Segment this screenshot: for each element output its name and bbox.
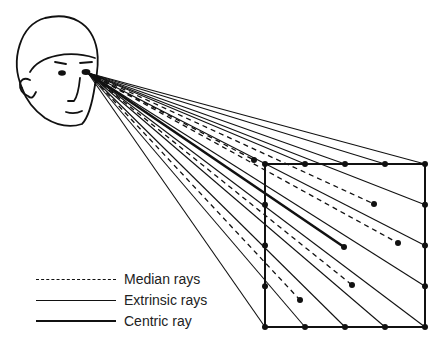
ray-diagram	[0, 0, 440, 344]
extrinsic-ray	[88, 73, 265, 327]
median-ray	[88, 73, 398, 243]
legend-label: Centric ray	[124, 313, 192, 329]
extrinsic-ray	[88, 73, 425, 164]
face-jaw	[22, 85, 95, 126]
centric-point	[341, 244, 347, 250]
legend-label: Extrinsic rays	[124, 292, 207, 308]
head-outline	[17, 16, 98, 88]
edge-point	[342, 324, 348, 330]
edge-point	[262, 161, 268, 167]
edge-point	[262, 202, 268, 208]
edge-point	[382, 161, 388, 167]
median-point	[297, 297, 303, 303]
median-point	[349, 282, 355, 288]
extrinsic-ray	[88, 73, 425, 327]
edge-point	[422, 324, 428, 330]
edge-point	[262, 243, 268, 249]
nose	[68, 78, 80, 101]
edge-point	[422, 161, 428, 167]
extrinsic-ray	[88, 73, 385, 327]
edge-point	[302, 161, 308, 167]
edge-point	[262, 283, 268, 289]
legend-swatch-dashed	[36, 279, 116, 280]
median-ray	[88, 73, 352, 285]
centric-ray	[88, 73, 344, 247]
legend-swatch-thick	[36, 320, 116, 322]
extrinsic-ray	[88, 73, 385, 164]
edge-point	[382, 324, 388, 330]
edge-point	[302, 324, 308, 330]
median-point	[251, 157, 257, 163]
left-eye	[59, 71, 65, 75]
edge-point	[422, 283, 428, 289]
head-drawing	[17, 16, 98, 126]
extrinsic-ray	[88, 73, 305, 164]
edge-point	[422, 202, 428, 208]
left-brow	[55, 62, 66, 64]
rays-group	[88, 73, 425, 327]
extrinsic-ray	[88, 73, 345, 327]
median-point	[395, 240, 401, 246]
mouth	[66, 111, 82, 113]
legend-label: Median rays	[124, 271, 200, 287]
edge-point	[262, 324, 268, 330]
edge-point	[342, 161, 348, 167]
right-brow	[80, 62, 92, 63]
extrinsic-ray	[88, 73, 425, 205]
edge-point	[422, 243, 428, 249]
median-point	[371, 201, 377, 207]
legend-swatch-solid	[36, 300, 116, 301]
